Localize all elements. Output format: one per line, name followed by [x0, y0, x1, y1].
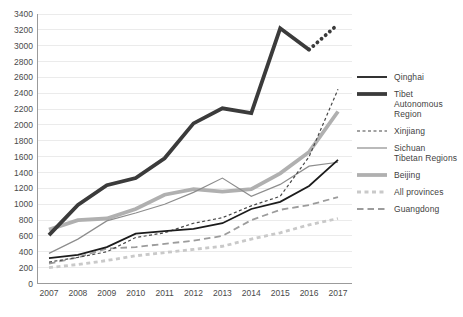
x-axis-tick-label: 2007 — [40, 288, 59, 298]
legend-item-all-provinces: All provinces — [357, 187, 463, 197]
chart-container: 0200400600800100012001400160018002000220… — [0, 0, 463, 317]
legend-swatch-guangdong — [357, 204, 387, 214]
y-axis-tick-label: 3000 — [14, 41, 33, 51]
y-axis-tick-label: 2600 — [14, 72, 33, 82]
y-axis-tick-label: 3400 — [14, 9, 33, 19]
legend-label: Xinjiang — [394, 126, 425, 136]
legend-swatch-beijing — [357, 170, 387, 180]
y-axis: 0200400600800100012001400160018002000220… — [14, 9, 33, 289]
y-axis-tick-label: 1000 — [14, 199, 33, 209]
axes-lines — [38, 14, 353, 284]
y-axis-tick-label: 600 — [19, 231, 33, 241]
x-axis-tick-label: 2015 — [271, 288, 290, 298]
y-axis-tick-label: 2800 — [14, 57, 33, 67]
x-axis-tick-label: 2014 — [242, 288, 261, 298]
gridlines — [38, 14, 352, 268]
legend-swatch-sichuan-tibetan-regions — [357, 143, 387, 153]
legend-swatch-all-provinces — [357, 187, 387, 197]
x-axis-tick-label: 2009 — [97, 288, 116, 298]
legend-swatch-tibet-autonomous-region — [357, 89, 387, 99]
legend-label: Beijing — [394, 170, 420, 180]
legend-swatch-xinjiang — [357, 126, 387, 136]
legend-item-qinghai: Qinghai — [357, 72, 463, 82]
legend-item-xinjiang: Xinjiang — [357, 126, 463, 136]
y-axis-tick-label: 800 — [19, 215, 33, 225]
y-axis-tick-label: 2200 — [14, 104, 33, 114]
legend-label: Qinghai — [394, 72, 424, 82]
x-axis-tick-label: 2011 — [155, 288, 174, 298]
x-axis-tick-label: 2008 — [68, 288, 87, 298]
x-axis: 2007200820092010201120122013201420152016… — [40, 288, 348, 298]
y-axis-tick-label: 1600 — [14, 152, 33, 162]
x-axis-tick-label: 2017 — [329, 288, 348, 298]
x-axis-tick-label: 2013 — [213, 288, 232, 298]
legend-swatch-qinghai — [357, 72, 387, 82]
legend-label: All provinces — [394, 187, 444, 197]
x-axis-tick-label: 2010 — [126, 288, 145, 298]
y-axis-tick-label: 2000 — [14, 120, 33, 130]
y-axis-tick-label: 1800 — [14, 136, 33, 146]
series-lines — [49, 24, 338, 267]
x-axis-tick-label: 2016 — [300, 288, 319, 298]
legend-item-sichuan-tibetan-regions: SichuanTibetan Regions — [357, 143, 463, 163]
legend-item-tibet-autonomous-region: TibetAutonomousRegion — [357, 89, 463, 119]
y-axis-tick-label: 1200 — [14, 183, 33, 193]
legend-label: Guangdong — [394, 204, 439, 214]
y-axis-tick-label: 3200 — [14, 25, 33, 35]
series-line-all-provinces — [49, 219, 338, 268]
series-line-qinghai — [49, 160, 338, 258]
legend: QinghaiTibetAutonomousRegionXinjiangSich… — [357, 72, 463, 221]
y-axis-tick-label: 200 — [19, 263, 33, 273]
legend-item-beijing: Beijing — [357, 170, 463, 180]
legend-item-guangdong: Guangdong — [357, 204, 463, 214]
y-axis-tick-label: 0 — [28, 279, 33, 289]
legend-label: SichuanTibetan Regions — [394, 143, 457, 163]
y-axis-tick-label: 400 — [19, 247, 33, 257]
y-axis-tick-label: 1400 — [14, 168, 33, 178]
x-axis-tick-label: 2012 — [184, 288, 203, 298]
legend-label: TibetAutonomousRegion — [394, 89, 443, 119]
series-line-beijing — [49, 111, 338, 229]
y-axis-tick-label: 2400 — [14, 88, 33, 98]
